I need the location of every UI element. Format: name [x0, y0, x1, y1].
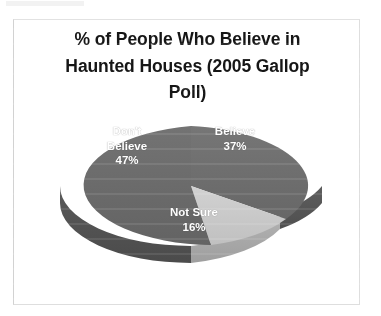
chart-frame: % of People Who Believe in Haunted House…: [13, 19, 360, 305]
scan-artifact: [6, 1, 84, 6]
pie-chart: Believe 37% Don't Believe 47% Not Sure 1…: [14, 20, 360, 305]
pie-chart-svg: [14, 20, 360, 305]
